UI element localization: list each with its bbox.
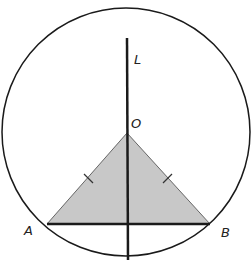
label-B: B [221, 225, 230, 240]
label-A: A [23, 223, 33, 238]
line-L [127, 38, 128, 260]
geometry-diagram: L O A B [0, 0, 252, 266]
label-O: O [131, 116, 141, 131]
label-L: L [134, 52, 141, 67]
diagram-canvas: L O A B [0, 0, 252, 266]
